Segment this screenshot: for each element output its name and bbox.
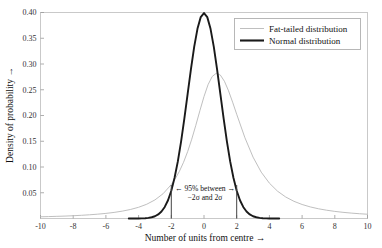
chart-legend: Fat-tailed distribution Normal distribut…: [235, 19, 361, 50]
y-tick-label: 0.35: [23, 34, 37, 43]
y-tick-label: 0.20: [23, 111, 37, 120]
x-tick-label: -10: [35, 222, 46, 231]
y-tick-label: 0.10: [23, 163, 37, 172]
x-tick-label: 4: [267, 222, 271, 231]
y-tick-label: 0.05: [23, 189, 37, 198]
x-tick-label: 10: [364, 222, 372, 231]
x-axis-title: Number of units from centre →: [145, 233, 266, 243]
y-axis-title: Density of probability →: [5, 67, 15, 163]
x-tick-label: 6: [300, 222, 304, 231]
x-tick-label: -8: [70, 222, 77, 231]
x-tick-label: 8: [333, 222, 337, 231]
x-tick-label: 2: [235, 222, 239, 231]
x-tick-label: -6: [103, 222, 110, 231]
x-tick-label: -2: [168, 222, 175, 231]
figure-container: -10-8-6-4-20246810 0.050.100.150.200.250…: [0, 0, 382, 248]
ci-annotation-line2: −2σ and 2σ: [188, 193, 223, 202]
distribution-chart: -10-8-6-4-20246810 0.050.100.150.200.250…: [0, 0, 382, 248]
y-tick-label: 0.25: [23, 86, 37, 95]
y-tick-label: 0.15: [23, 137, 37, 146]
legend-label-normal-distribution: Normal distribution: [269, 36, 341, 46]
x-tick-label: 0: [202, 222, 206, 231]
y-tick-label: 0.30: [23, 60, 37, 69]
legend-label-fat-tailed-distribution: Fat-tailed distribution: [269, 24, 348, 34]
y-tick-label: 0.40: [23, 8, 37, 17]
x-tick-label: -4: [135, 222, 142, 231]
